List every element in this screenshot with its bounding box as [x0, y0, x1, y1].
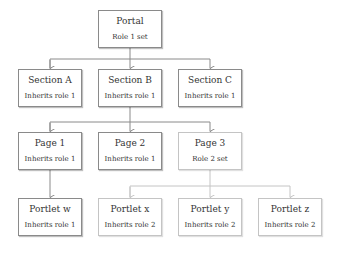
node-title: Section C — [179, 74, 241, 86]
node-page-1: Page 1 Inherits role 1 — [18, 132, 82, 170]
node-title: Portlet w — [19, 203, 81, 215]
node-subtitle: Role 2 set — [179, 155, 241, 164]
node-subtitle: Inherits role 1 — [99, 155, 161, 164]
node-subtitle: Role 1 set — [99, 33, 161, 42]
node-page-3: Page 3 Role 2 set — [178, 132, 242, 170]
node-subtitle: Inherits role 1 — [99, 92, 161, 101]
node-section-a: Section A Inherits role 1 — [18, 69, 82, 107]
node-subtitle: Inherits role 2 — [99, 221, 161, 230]
node-portlet-w: Portlet w Inherits role 1 — [18, 198, 82, 236]
node-title: Portlet z — [259, 203, 321, 215]
node-title: Portlet x — [99, 203, 161, 215]
node-subtitle: Inherits role 1 — [19, 92, 81, 101]
node-subtitle: Inherits role 2 — [179, 221, 241, 230]
node-title: Page 1 — [19, 137, 81, 149]
node-subtitle: Inherits role 1 — [19, 221, 81, 230]
node-section-c: Section C Inherits role 1 — [178, 69, 242, 107]
node-portlet-z: Portlet z Inherits role 2 — [258, 198, 322, 236]
node-title: Page 3 — [179, 137, 241, 149]
node-portlet-y: Portlet y Inherits role 2 — [178, 198, 242, 236]
node-title: Page 2 — [99, 137, 161, 149]
node-subtitle: Inherits role 2 — [259, 221, 321, 230]
node-title: Section B — [99, 74, 161, 86]
node-portlet-x: Portlet x Inherits role 2 — [98, 198, 162, 236]
node-page-2: Page 2 Inherits role 1 — [98, 132, 162, 170]
node-subtitle: Inherits role 1 — [179, 92, 241, 101]
node-title: Portlet y — [179, 203, 241, 215]
node-subtitle: Inherits role 1 — [19, 155, 81, 164]
node-title: Portal — [99, 15, 161, 27]
node-title: Section A — [19, 74, 81, 86]
node-section-b: Section B Inherits role 1 — [98, 69, 162, 107]
node-portal: Portal Role 1 set — [98, 10, 162, 48]
